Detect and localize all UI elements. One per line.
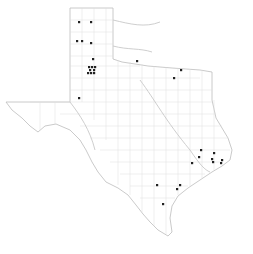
occurrence-dot [211, 158, 213, 160]
occurrence-dot [89, 69, 91, 71]
occurrence-dot [212, 161, 214, 163]
occurrence-dot [90, 72, 92, 74]
occurrence-dot [78, 97, 80, 99]
occurrence-dot [88, 66, 90, 68]
occurrence-dot [76, 40, 78, 42]
occurrence-dot [200, 149, 202, 151]
occurrence-dot [81, 40, 83, 42]
occurrence-dot [162, 203, 164, 205]
occurrence-dot [156, 184, 158, 186]
occurrence-dot [220, 162, 222, 164]
occurrence-dot [94, 66, 96, 68]
occurrence-dot [173, 77, 175, 79]
occurrence-dot [221, 159, 223, 161]
occurrence-dot [191, 162, 193, 164]
occurrence-dot [93, 72, 95, 74]
occurrence-dot [180, 69, 182, 71]
occurrence-dot [176, 188, 178, 190]
occurrence-dot [179, 184, 181, 186]
occurrence-dot [87, 72, 89, 74]
occurrence-dot [90, 21, 92, 23]
occurrence-dot [93, 69, 95, 71]
occurrence-dot [78, 21, 80, 23]
occurrence-dot [213, 152, 215, 154]
occurrence-dot [91, 66, 93, 68]
occurrence-dot [198, 156, 200, 158]
occurrence-dot [136, 60, 138, 62]
occurrence-dot [92, 58, 94, 60]
occurrence-dot [90, 42, 92, 44]
texas-county-map [0, 0, 253, 254]
